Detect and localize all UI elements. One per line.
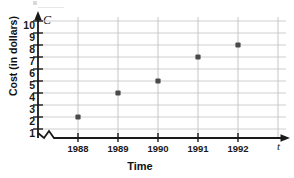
axis-break-symbol	[38, 131, 60, 138]
y-axis-spine	[34, 11, 42, 138]
scatter-plot-figure: Cost (in dollars) 10 9 8 7 6 5 4 3 2 1 C…	[0, 0, 294, 178]
data-point	[195, 54, 200, 59]
data-point	[75, 114, 80, 119]
x-axis-spine	[38, 131, 290, 142]
horizontal-gridlines	[38, 21, 286, 129]
data-point	[115, 90, 120, 95]
data-point	[155, 78, 160, 83]
plot-area	[0, 0, 294, 178]
data-point	[235, 42, 240, 47]
vertical-gridlines	[78, 17, 278, 138]
